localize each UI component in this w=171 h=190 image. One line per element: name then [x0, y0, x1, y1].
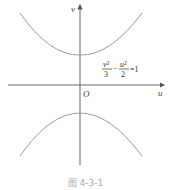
- hyperbola-lower-branch: [20, 113, 142, 156]
- v-axis-label: v: [71, 4, 75, 14]
- eq-minus: −: [113, 64, 118, 73]
- eq-term2-denominator: 2: [121, 70, 125, 79]
- equation-label: v² 3 − u² 2 =1: [102, 60, 139, 79]
- hyperbola-upper-branch: [20, 13, 142, 55]
- eq-term2-numerator: u²: [120, 60, 127, 69]
- figure-caption: 图 4-3-1: [0, 176, 171, 189]
- origin-label: O: [83, 89, 90, 99]
- u-axis-label: u: [158, 88, 163, 98]
- eq-term1-numerator: v²: [103, 60, 110, 69]
- eq-rhs: =1: [130, 65, 139, 74]
- eq-term1-denominator: 3: [104, 70, 108, 79]
- hyperbola-diagram: v u O v² 3 − u² 2 =1: [0, 0, 171, 190]
